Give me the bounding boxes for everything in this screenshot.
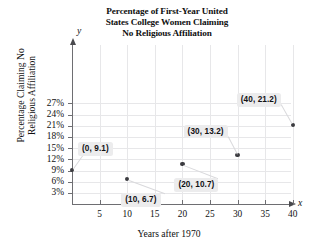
gridline-vertical <box>238 45 239 205</box>
gridline-vertical <box>155 45 156 205</box>
y-tick-mark <box>68 159 73 160</box>
x-tick-mark <box>238 200 239 205</box>
data-point-label: (0, 9.1) <box>78 142 113 156</box>
x-axis-variable-label: x <box>298 197 302 208</box>
y-tick-label: 12% <box>32 154 64 164</box>
y-axis-arrow-icon <box>70 38 76 45</box>
title-line-1: Percentage of First-Year United <box>74 6 260 17</box>
plot-area: 3%6%9%12%15%18%21%24%27% 510152025303540… <box>72 45 298 205</box>
gridline-vertical <box>265 45 266 205</box>
y-axis-variable-label: y <box>77 25 81 36</box>
y-tick-mark <box>68 193 73 194</box>
data-point-label: (30, 13.2) <box>184 125 228 139</box>
y-tick-label: 9% <box>32 165 64 175</box>
x-tick-mark <box>210 200 211 205</box>
y-tick-label: 27% <box>32 98 64 108</box>
x-tick-label: 10 <box>117 209 137 219</box>
y-axis-label-line-1: Percentage Claiming No <box>15 20 26 170</box>
x-tick-label: 5 <box>90 209 110 219</box>
title-line-3: No Religious Affiliation <box>74 28 260 39</box>
data-point-label: (10, 6.7) <box>121 193 160 207</box>
y-tick-label: 24% <box>32 109 64 119</box>
y-tick-label: 21% <box>32 120 64 130</box>
y-tick-label: 15% <box>32 143 64 153</box>
y-tick-mark <box>68 115 73 116</box>
x-tick-mark <box>100 200 101 205</box>
data-point-label: (40, 21.2) <box>237 93 281 107</box>
y-tick-mark <box>68 148 73 149</box>
y-tick-label: 18% <box>32 131 64 141</box>
x-axis-line <box>72 204 290 205</box>
gridline-vertical <box>100 45 101 205</box>
title-line-2: States College Women Claiming <box>74 17 260 28</box>
y-tick-label: 6% <box>32 176 64 186</box>
x-tick-label: 15 <box>145 209 165 219</box>
y-tick-label: 3% <box>32 187 64 197</box>
x-tick-label: 25 <box>200 209 220 219</box>
y-tick-mark <box>68 137 73 138</box>
x-tick-label: 30 <box>228 209 248 219</box>
x-tick-label: 20 <box>172 209 192 219</box>
label-leader-line <box>227 136 237 154</box>
y-tick-mark <box>68 126 73 127</box>
y-tick-mark <box>68 103 73 104</box>
y-tick-mark <box>68 182 73 183</box>
x-tick-label: 40 <box>283 209 303 219</box>
x-tick-mark <box>265 200 266 205</box>
chart-screenshot: Percentage of First-Year United States C… <box>0 0 324 249</box>
x-tick-mark <box>182 200 183 205</box>
page-title: Percentage of First-Year United States C… <box>74 6 260 40</box>
x-axis-label: Years after 1970 <box>74 228 264 239</box>
x-tick-mark <box>293 200 294 205</box>
x-tick-label: 35 <box>255 209 275 219</box>
label-leader-line <box>73 153 85 169</box>
data-point-label: (20, 10.7) <box>174 178 218 192</box>
